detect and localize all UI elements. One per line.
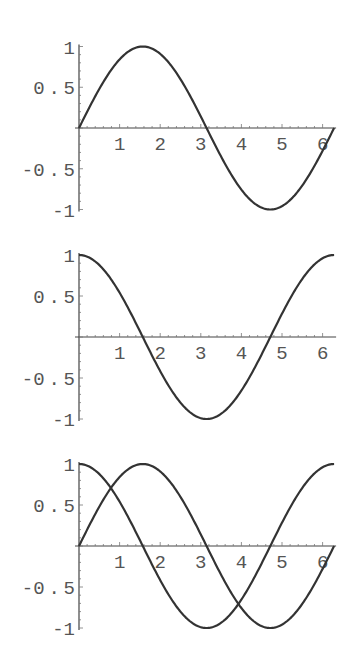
x-tick-label: 4 — [236, 343, 247, 365]
x-tick-label: 4 — [236, 134, 247, 156]
y-tick-label: 1 — [64, 38, 75, 60]
x-tick-label: 5 — [276, 552, 287, 574]
y-tick-label: 0 . 5 — [33, 287, 75, 309]
y-tick-label: -1 — [52, 619, 75, 641]
x-tick-label: 5 — [276, 343, 287, 365]
x-tick-label: 3 — [195, 343, 206, 365]
plot-panel-1: 12345610 . 5-0 . 5-1 — [22, 38, 336, 223]
y-tick-label: -0 . 5 — [22, 160, 75, 182]
y-tick-label: 0 . 5 — [33, 496, 75, 518]
y-tick-label: -0 . 5 — [22, 578, 75, 600]
x-tick-label: 5 — [276, 134, 287, 156]
y-tick-label: -1 — [52, 201, 75, 223]
x-tick-label: 4 — [236, 552, 247, 574]
plot-panel-2: 12345610 . 5-0 . 5-1 — [22, 246, 336, 432]
x-tick-label: 1 — [114, 552, 125, 574]
x-tick-label: 1 — [114, 343, 125, 365]
y-tick-label: -0 . 5 — [22, 369, 75, 391]
x-tick-label: 6 — [317, 343, 328, 365]
y-tick-label: -1 — [52, 410, 75, 432]
x-tick-label: 2 — [154, 134, 165, 156]
y-tick-label: 1 — [64, 246, 75, 268]
chart-canvas: 12345610 . 5-0 . 5-112345610 . 5-0 . 5-1… — [0, 0, 358, 665]
x-tick-label: 3 — [195, 552, 206, 574]
plot-panel-3: 12345610 . 5-0 . 5-1 — [22, 455, 336, 641]
y-tick-label: 0 . 5 — [33, 78, 75, 100]
x-tick-label: 3 — [195, 134, 206, 156]
x-tick-label: 1 — [114, 134, 125, 156]
y-tick-label: 1 — [64, 455, 75, 477]
